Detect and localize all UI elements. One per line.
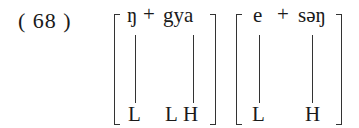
association-line [193,35,194,103]
segment-e: e [253,5,262,26]
tone-H: H [183,104,198,125]
association-line [135,35,136,103]
tone-L: L [252,104,265,125]
association-line [312,35,313,103]
tone-H: H [305,104,320,125]
example-number: ( 68 ) [18,8,72,34]
plus-sign: + [277,4,289,25]
left-bracket [114,14,120,125]
plus-sign: + [143,4,155,25]
tone-L: L [128,104,141,125]
segment-seng: səŋ [298,5,326,26]
left-bracket [236,14,242,125]
right-bracket [336,14,342,125]
right-bracket [210,14,216,125]
association-line [259,35,260,103]
segment-gya: gya [163,5,193,26]
tone-L: L [165,104,178,125]
segment-eng: ŋ [127,5,137,26]
